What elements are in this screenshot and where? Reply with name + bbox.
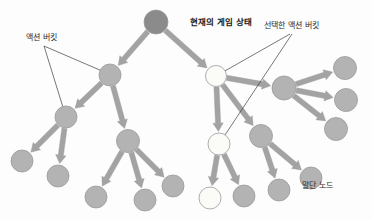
- annotation-leader-line: [216, 34, 290, 76]
- tree-node-selected[interactable]: [206, 66, 227, 87]
- tree-node-gray[interactable]: [250, 125, 273, 148]
- tree-edge-arrow: [75, 81, 103, 108]
- tree-edge-arrow: [111, 85, 128, 128]
- tree-node-selected[interactable]: [208, 133, 230, 155]
- tree-node-leaf[interactable]: [162, 175, 184, 197]
- tree-edge-arrow: [213, 87, 223, 132]
- tree-edge-arrow: [295, 70, 333, 87]
- tree-edge-arrow: [56, 128, 67, 164]
- tree-node-leaf[interactable]: [325, 118, 348, 141]
- tree-diagram: 현재의 게임 상태액션 버킷선택한 액션 버킷말단 노드: [0, 0, 372, 220]
- annotation-label-selected-action-bucket: 선택한 액션 버킷: [264, 22, 319, 30]
- annotation-label-action-bucket: 액션 버킷: [26, 34, 57, 42]
- tree-node-leaf[interactable]: [334, 57, 357, 80]
- annotation-leader-line: [44, 46, 109, 74]
- annotation-label-leaf-node: 말단 노드: [302, 182, 333, 190]
- tree-node-leaf-selected[interactable]: [199, 187, 221, 209]
- tree-edge-arrow: [221, 83, 254, 125]
- tree-node-leaf[interactable]: [268, 179, 290, 201]
- tree-node-leaf[interactable]: [233, 185, 255, 207]
- tree-edge-arrow: [226, 75, 270, 89]
- tree-node-gray[interactable]: [272, 76, 296, 100]
- tree-node-leaf[interactable]: [47, 165, 69, 187]
- tree-node-leaf[interactable]: [85, 186, 107, 208]
- tree-node-leaf[interactable]: [134, 189, 156, 211]
- tree-edge-arrow: [164, 28, 208, 68]
- tree-edge-arrow: [102, 150, 124, 186]
- tree-edge-arrow: [208, 155, 219, 186]
- root-node-current-state[interactable]: [144, 10, 168, 34]
- annotation-label-current-game-state: 현재의 게임 상태: [190, 18, 253, 27]
- tree-node-gray[interactable]: [117, 130, 140, 153]
- edge-layer: [31, 28, 333, 188]
- tree-node-gray[interactable]: [99, 64, 121, 86]
- tree-edge-arrow: [31, 123, 60, 152]
- tree-edge-arrow: [118, 30, 150, 66]
- tree-node-leaf[interactable]: [11, 150, 33, 172]
- tree-edge-arrow: [222, 153, 240, 184]
- tree-node-leaf[interactable]: [335, 89, 358, 112]
- tree-node-gray[interactable]: [55, 106, 77, 128]
